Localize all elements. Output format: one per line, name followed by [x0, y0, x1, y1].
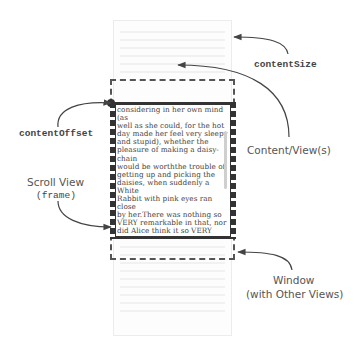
content-offset-label: contentOffset [19, 128, 93, 139]
window-label: Window [273, 274, 314, 286]
window-arrow [238, 252, 292, 270]
content-views-arrow [178, 65, 289, 137]
scroll-view-label: Scroll View [27, 176, 84, 188]
scroll-view-arrow [58, 201, 111, 227]
content-size-arrow [234, 37, 288, 54]
window-sub-label: (with Other Views) [246, 288, 343, 300]
content-size-label: contentSize [254, 59, 317, 70]
content-views-label: Content/View(s) [247, 144, 331, 156]
scroll-view-frame-label: (frame) [36, 190, 76, 201]
content-offset-arrow [58, 103, 111, 127]
